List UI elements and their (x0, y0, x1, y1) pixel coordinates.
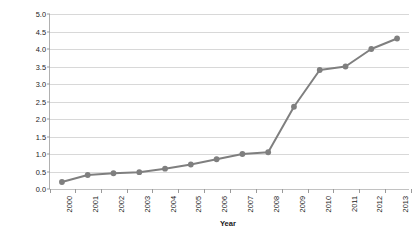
x-axis-tick-label-2009: 2009 (298, 196, 307, 212)
x-axis-tick-label-2002: 2002 (117, 196, 126, 212)
data-point-2009 (291, 104, 297, 110)
x-axis-tick-label-2007: 2007 (246, 196, 255, 212)
y-axis-tick-label: 1.0 (22, 150, 46, 159)
y-axis-tick-label: 5.0 (22, 10, 46, 19)
data-point-2011 (343, 64, 349, 70)
x-axis-tick-label-2012: 2012 (375, 196, 384, 212)
x-axis-tick-label-2000: 2000 (65, 196, 74, 212)
x-axis-tick-label-2013: 2013 (401, 196, 410, 212)
x-axis-tick-mark (359, 189, 360, 193)
data-point-2000 (59, 179, 65, 185)
y-axis-tick-label: 2.0 (22, 115, 46, 124)
x-axis-tick-mark (127, 189, 128, 193)
data-point-2006 (214, 156, 220, 162)
x-axis-tick-mark (75, 189, 76, 193)
data-point-2004 (162, 166, 168, 172)
y-axis-tick-label: 0.0 (22, 185, 46, 194)
x-axis-tick-mark (282, 189, 283, 193)
x-axis-tick-label-2001: 2001 (91, 196, 100, 212)
data-point-2007 (240, 151, 246, 157)
x-axis-tick-mark (411, 189, 412, 193)
x-axis-tick-mark (333, 189, 334, 193)
y-axis-tick-label: 2.5 (22, 97, 46, 106)
x-axis-tick-mark (230, 189, 231, 193)
x-axis-tick-mark (256, 189, 257, 193)
data-point-2013 (394, 36, 400, 42)
series-path (62, 39, 397, 183)
x-axis-tick-label-2004: 2004 (169, 196, 178, 212)
data-point-2003 (136, 169, 142, 175)
x-axis-tick-mark (152, 189, 153, 193)
x-axis-title: Year (44, 219, 412, 228)
y-axis-tick-label: 4.0 (22, 45, 46, 54)
x-axis-tick-mark (308, 189, 309, 193)
y-axis-tick-label: 3.0 (22, 80, 46, 89)
series-line-structured-observations (50, 14, 409, 189)
y-axis-tick-label: 4.5 (22, 27, 46, 36)
data-point-2001 (85, 172, 91, 178)
y-axis-title: Structured observations (Billions) (0, 0, 16, 237)
data-point-2012 (368, 46, 374, 52)
data-point-2008 (265, 149, 271, 155)
x-axis-tick-mark (50, 189, 51, 193)
x-axis-tick-mark (178, 189, 179, 193)
data-point-2010 (317, 67, 323, 73)
x-axis-tick-label-2003: 2003 (143, 196, 152, 212)
x-axis-tick-mark (101, 189, 102, 193)
y-axis-tick-label: 3.5 (22, 62, 46, 71)
x-axis-tick-label-2008: 2008 (272, 196, 281, 212)
data-point-2002 (111, 170, 117, 176)
x-axis-tick-label-2010: 2010 (324, 196, 333, 212)
x-axis-tick-label-2006: 2006 (220, 196, 229, 212)
x-axis-tick-label-2005: 2005 (194, 196, 203, 212)
y-axis-tick-label: 0.5 (22, 167, 46, 176)
x-axis-tick-label-2011: 2011 (350, 196, 359, 212)
plot-area: 0.00.51.01.52.02.53.03.54.04.55.0 200020… (49, 14, 409, 189)
data-point-2005 (188, 162, 194, 168)
line-chart: Structured observations (Billions) 0.00.… (0, 0, 417, 237)
y-axis-tick-label: 1.5 (22, 132, 46, 141)
x-axis-tick-mark (204, 189, 205, 193)
x-axis-tick-mark (385, 189, 386, 193)
